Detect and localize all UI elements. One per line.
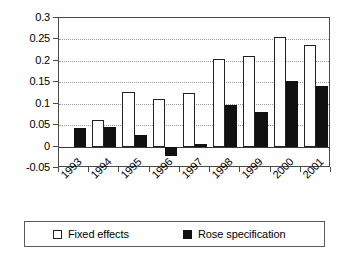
bar-fixed-effects-2000 — [274, 37, 286, 146]
bar-fixed-effects-1995 — [122, 92, 134, 146]
y-tick-label: 0.05 — [29, 119, 50, 130]
legend-entry-rose-specification: Rose specification — [183, 222, 285, 246]
bar-rose-specification-1999 — [255, 112, 267, 146]
bar-rose-specification-1997 — [195, 144, 207, 146]
gridline — [59, 61, 329, 62]
y-tick-label: 0.25 — [29, 33, 50, 44]
bar-chart-figure: -0.0500.050.10.150.20.250.3 199319941995… — [0, 0, 349, 261]
legend-label: Fixed effects — [68, 229, 129, 240]
plot-area — [58, 17, 330, 167]
y-tick-label: -0.05 — [26, 162, 50, 173]
bar-rose-specification-1993 — [74, 128, 86, 147]
bar-fixed-effects-2001 — [304, 45, 316, 147]
bar-rose-specification-1996 — [165, 147, 177, 156]
bar-fixed-effects-1994 — [92, 120, 104, 147]
y-tick-label: 0.3 — [35, 12, 50, 23]
bar-fixed-effects-1997 — [183, 93, 195, 146]
gridline — [59, 39, 329, 40]
y-tick-label: 0.1 — [35, 97, 50, 108]
zero-axis-line — [59, 147, 329, 148]
bar-rose-specification-2000 — [286, 81, 298, 147]
bar-rose-specification-1998 — [225, 105, 237, 147]
y-tick-label: 0.2 — [35, 54, 50, 65]
open-square-swatch — [53, 230, 62, 239]
filled-square-swatch — [183, 230, 192, 239]
legend-entry-fixed-effects: Fixed effects — [53, 222, 129, 246]
bar-rose-specification-1994 — [104, 127, 116, 147]
bar-fixed-effects-1998 — [213, 59, 225, 146]
y-tick-label: 0 — [44, 140, 50, 151]
bar-rose-specification-2001 — [316, 86, 328, 147]
bar-fixed-effects-1996 — [153, 99, 165, 147]
x-tick-mark — [330, 167, 331, 172]
bar-rose-specification-1995 — [135, 135, 147, 147]
chart-legend: Fixed effectsRose specification — [24, 221, 325, 247]
y-tick-label: 0.15 — [29, 76, 50, 87]
bar-fixed-effects-1999 — [243, 56, 255, 147]
legend-label: Rose specification — [198, 229, 285, 240]
